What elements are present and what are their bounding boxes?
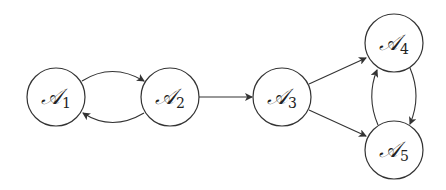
node-a1-label: 𝒜1 — [26, 82, 86, 112]
node-a2-label: 𝒜2 — [140, 82, 200, 112]
graph-diagram: 𝒜1 𝒜2 𝒜3 𝒜4 𝒜5 — [0, 0, 446, 190]
edge-a4-a5 — [410, 68, 416, 124]
edge-a3-a4 — [309, 58, 366, 84]
edge-a1-a2 — [82, 72, 144, 82]
edge-a3-a5 — [309, 110, 366, 136]
edge-a2-a1 — [83, 113, 144, 123]
node-a5-label: 𝒜5 — [364, 135, 424, 165]
node-a3-label: 𝒜3 — [252, 82, 312, 112]
edge-a5-a4 — [372, 70, 378, 125]
node-a4-label: 𝒜4 — [364, 28, 424, 58]
